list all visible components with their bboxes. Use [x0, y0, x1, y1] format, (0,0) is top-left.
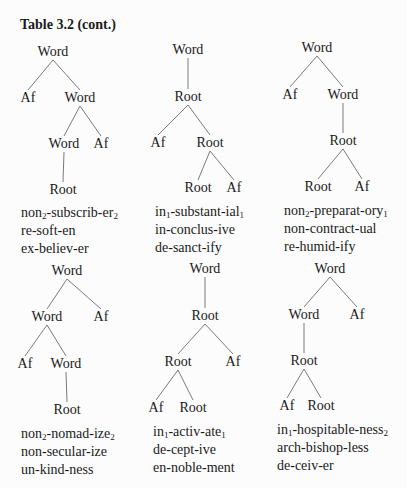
tree-branch	[304, 277, 330, 307]
tree-branch	[198, 151, 210, 180]
tree-branch	[317, 56, 343, 87]
tree-2-edges	[158, 58, 234, 180]
tree-branch	[25, 325, 47, 356]
tree-node-af: Af	[280, 399, 295, 413]
tree-branch	[53, 60, 80, 90]
example-word: de-ceiv-er	[277, 457, 334, 475]
tree-branch	[304, 369, 321, 398]
example-word: in1-substant-ial1	[155, 203, 244, 221]
tree-node-root: Root	[290, 354, 317, 368]
example-word: de-sanct-ify	[155, 239, 222, 257]
tree-branch	[178, 370, 193, 400]
example-word: in1-hospitable-ness2	[277, 421, 388, 439]
tree-branch	[330, 277, 357, 307]
tree-branch	[47, 325, 66, 356]
tree-3-edges	[290, 56, 362, 179]
tree-branch	[343, 149, 362, 179]
tree-node-af: Af	[227, 181, 242, 195]
example-word: non2-subscrib-er2	[21, 204, 118, 222]
tree-node-word: Word	[51, 357, 82, 371]
example-word: in-conclus-ive	[155, 221, 235, 239]
tree-5-edges	[156, 277, 233, 400]
tree-node-word: Word	[289, 308, 320, 322]
example-word: en-noble-ment	[153, 459, 235, 477]
tree-node-af: Af	[283, 88, 298, 102]
example-word: re-soft-en	[21, 222, 75, 240]
tree-branch	[67, 279, 101, 309]
tree-node-word: Word	[315, 262, 346, 276]
tree-node-root: Root	[329, 134, 356, 148]
tree-branch	[80, 106, 101, 136]
tree-node-af: Af	[151, 136, 166, 150]
tree-branch	[158, 105, 188, 135]
tree-branch	[290, 56, 317, 87]
tree-node-root: Root	[307, 399, 334, 413]
tree-branch	[47, 279, 67, 309]
tree-node-af: Af	[355, 180, 370, 194]
tree-node-word: Word	[173, 43, 204, 57]
tree-1-edges	[28, 60, 101, 182]
tree-node-root: Root	[184, 181, 211, 195]
tree-branch	[188, 105, 210, 135]
example-word: arch-bishop-less	[277, 439, 369, 457]
tree-node-root: Root	[304, 180, 331, 194]
tree-branch	[287, 369, 304, 398]
tree-branch	[178, 324, 205, 354]
tree-branch	[66, 372, 67, 402]
tree-node-word: Word	[302, 41, 333, 55]
tree-node-root: Root	[53, 403, 80, 417]
tree-node-af: Af	[350, 308, 365, 322]
tree-node-af: Af	[21, 91, 36, 105]
tree-node-word: Word	[49, 137, 80, 151]
example-word: non-secular-ize	[21, 443, 107, 461]
tree-node-word: Word	[65, 91, 96, 105]
tree-node-root: Root	[191, 309, 218, 323]
tree-node-root: Root	[164, 355, 191, 369]
tree-branch	[28, 60, 53, 90]
tree-branch	[210, 151, 234, 180]
tree-node-af: Af	[149, 401, 164, 415]
tree-branch	[205, 324, 233, 354]
tree-node-root: Root	[196, 136, 223, 150]
tree-node-word: Word	[328, 88, 359, 102]
example-word: un-kind-ness	[21, 461, 93, 479]
tree-node-word: Word	[32, 310, 63, 324]
example-word: in1-activ-ate1	[153, 423, 226, 441]
tree-node-root: Root	[174, 90, 201, 104]
tree-branch	[63, 152, 64, 182]
example-word: re-humid-ify	[284, 238, 356, 256]
tree-node-word: Word	[190, 262, 221, 276]
tree-node-af: Af	[94, 137, 109, 151]
tree-node-af: Af	[94, 310, 109, 324]
tree-branch	[156, 370, 178, 400]
example-word: non2-preparat-ory1	[284, 202, 388, 220]
tree-6-edges	[287, 277, 357, 398]
tree-branch	[318, 149, 343, 179]
tree-node-af: Af	[18, 357, 33, 371]
tree-node-root: Root	[49, 183, 76, 197]
tree-node-word: Word	[38, 45, 69, 59]
example-word: de-cept-ive	[153, 441, 216, 459]
example-word: ex-believ-er	[21, 240, 89, 258]
example-word: non2-nomad-ize2	[21, 425, 115, 443]
tree-node-word: Word	[52, 264, 83, 278]
tree-node-root: Root	[179, 401, 206, 415]
tree-branch	[64, 106, 80, 136]
example-word: non-contract-ual	[284, 220, 377, 238]
tree-4-edges	[25, 279, 101, 402]
tree-node-af: Af	[226, 355, 241, 369]
